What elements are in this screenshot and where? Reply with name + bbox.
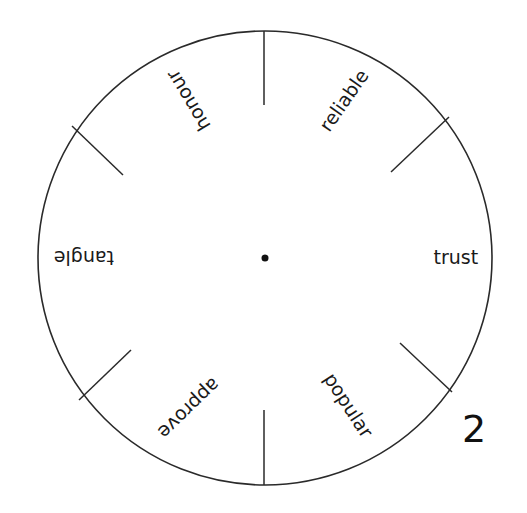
page-number: 2: [462, 410, 486, 448]
center-dot: [262, 255, 269, 262]
divider-line: [79, 350, 131, 400]
divider-line: [391, 117, 449, 172]
divider-line: [400, 343, 452, 392]
divider-line: [72, 126, 123, 175]
wheel-label-tangle: tangle: [54, 248, 114, 267]
wheel-label-trust: trust: [434, 248, 479, 267]
